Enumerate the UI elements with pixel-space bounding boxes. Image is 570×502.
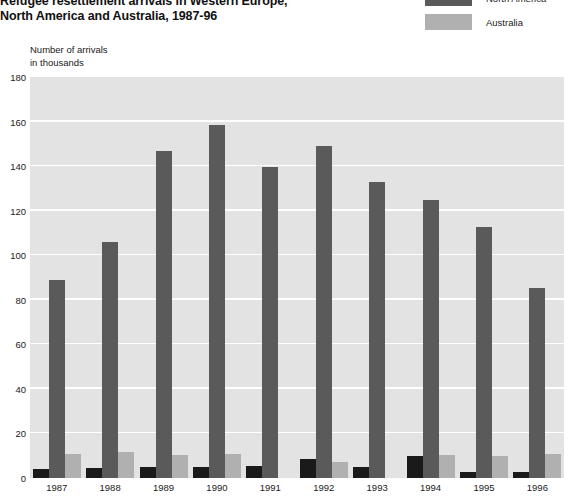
y-axis-tick-label: 120 xyxy=(0,205,26,216)
bar xyxy=(209,125,225,478)
x-axis: 1987198819891990199119921993199419951996 xyxy=(30,482,564,493)
bar-group xyxy=(457,77,510,478)
bar xyxy=(156,151,172,478)
bar xyxy=(460,472,476,478)
legend-item: North America xyxy=(425,0,546,6)
bar-group xyxy=(137,77,190,478)
bar xyxy=(102,242,118,478)
bar xyxy=(353,467,369,478)
bar xyxy=(118,452,134,478)
bar-group xyxy=(297,77,350,478)
bar xyxy=(407,456,423,478)
x-axis-tick-label: 1988 xyxy=(83,482,136,493)
bar-groups xyxy=(30,77,564,478)
bar xyxy=(86,468,102,478)
y-axis-tick-label: 20 xyxy=(0,428,26,439)
page-title-line-2: North America and Australia, 1987-96 xyxy=(0,9,330,24)
bar xyxy=(140,467,156,478)
bar xyxy=(49,280,65,478)
bar xyxy=(529,288,545,478)
x-axis-tick-label: 1994 xyxy=(404,482,457,493)
page-title: Refugee resettlement arrivals in Western… xyxy=(0,0,330,23)
bar xyxy=(262,167,278,478)
x-axis-tick-label: 1990 xyxy=(190,482,243,493)
x-axis-tick-label: 1995 xyxy=(457,482,510,493)
x-axis-tick-label: 1991 xyxy=(244,482,297,493)
x-axis-tick-label: 1996 xyxy=(511,482,564,493)
x-axis-tick-label: 1987 xyxy=(30,482,83,493)
legend-item: Australia xyxy=(425,14,546,30)
x-axis-tick-label: 1989 xyxy=(137,482,190,493)
legend-label: Australia xyxy=(486,17,523,28)
y-axis-tick-label: 180 xyxy=(0,72,26,83)
bar-group xyxy=(511,77,564,478)
bar xyxy=(300,459,316,478)
bar xyxy=(369,182,385,478)
bar-group xyxy=(350,77,403,478)
chart-legend: North AmericaAustralia xyxy=(425,0,546,30)
y-axis-caption: Number of arrivals in thousands xyxy=(30,44,108,69)
legend-label: North America xyxy=(486,0,546,4)
bar xyxy=(513,472,529,478)
bar xyxy=(33,469,49,478)
y-axis-tick-label: 140 xyxy=(0,161,26,172)
y-axis-tick-label: 160 xyxy=(0,116,26,127)
y-axis-tick-label: 60 xyxy=(0,339,26,350)
y-axis-tick-label: 100 xyxy=(0,250,26,261)
y-axis: 020406080100120140160180 xyxy=(0,77,26,478)
bar xyxy=(225,454,241,479)
y-axis-tick-label: 0 xyxy=(0,473,26,484)
y-axis-caption-line-1: Number of arrivals xyxy=(30,44,108,57)
y-axis-caption-line-2: in thousands xyxy=(30,57,108,70)
bar xyxy=(423,200,439,478)
bar-group xyxy=(83,77,136,478)
bar xyxy=(332,462,348,478)
y-axis-tick-label: 40 xyxy=(0,383,26,394)
page-title-line-1: Refugee resettlement arrivals in Western… xyxy=(0,0,330,9)
bar xyxy=(193,467,209,478)
bar xyxy=(492,456,508,478)
x-axis-tick-label: 1993 xyxy=(350,482,403,493)
y-axis-tick-label: 80 xyxy=(0,294,26,305)
bar xyxy=(545,454,561,479)
bar-group xyxy=(30,77,83,478)
x-axis-tick-label: 1992 xyxy=(297,482,350,493)
bar-group xyxy=(404,77,457,478)
legend-swatch xyxy=(425,0,472,6)
bar xyxy=(316,146,332,478)
bar xyxy=(476,227,492,478)
legend-swatch xyxy=(425,14,472,30)
chart-plot-area xyxy=(30,77,564,478)
bar-group xyxy=(244,77,297,478)
bar xyxy=(439,455,455,478)
bar-group xyxy=(190,77,243,478)
bar xyxy=(172,455,188,478)
bar xyxy=(65,454,81,479)
bar xyxy=(246,466,262,478)
